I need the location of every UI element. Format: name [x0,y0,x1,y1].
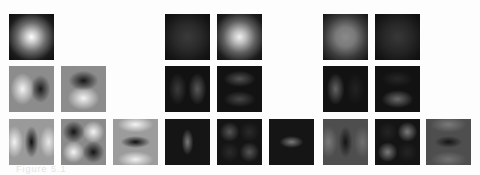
tile-g1-r0c0 [9,14,54,60]
tile-g2-r1c0 [165,66,210,112]
tile-g1-r1c0 [9,66,54,112]
tile-g2-r1c1 [217,66,262,112]
tile-g3-r0c1 [375,14,420,60]
tile-g3-r1c0 [323,66,368,112]
tile-g1-r2c1 [61,119,106,165]
figure-caption: Figure 5.1 [16,164,67,174]
tile-g2-r2c2 [269,119,314,165]
tile-g2-r0c1 [217,14,262,60]
tile-g2-r2c1 [217,119,262,165]
tile-g2-r0c0 [165,14,210,60]
tile-g3-r2c2 [426,119,471,165]
tile-g1-r2c2 [113,119,158,165]
tile-g3-r1c1 [375,66,420,112]
tile-g1-r1c1 [61,66,106,112]
tile-g3-r2c1 [375,119,420,165]
tile-g3-r0c0 [323,14,368,60]
tile-g3-r2c0 [323,119,368,165]
tile-g2-r2c0 [165,119,210,165]
tile-g1-r2c0 [9,119,54,165]
